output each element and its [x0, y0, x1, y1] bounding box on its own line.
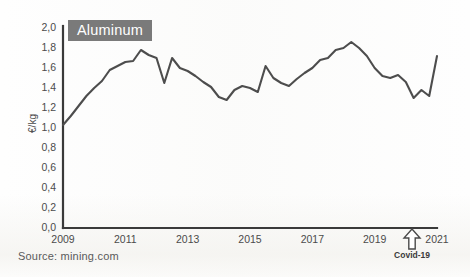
series-title-badge: Aluminum — [68, 20, 152, 41]
data-line-aluminum — [63, 42, 437, 125]
axis-lines — [63, 26, 437, 228]
source-note: Source: mining.com — [18, 250, 119, 262]
plot-area — [0, 0, 470, 277]
covid-up-arrow-icon — [402, 228, 422, 250]
chart-figure: €/kg 0,00,20,40,60,81,01,21,41,61,82,0 2… — [0, 0, 470, 277]
covid-annotation-label: Covid-19 — [383, 250, 441, 260]
